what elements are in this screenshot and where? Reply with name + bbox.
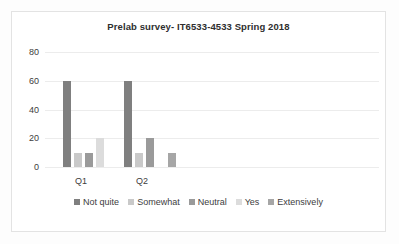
y-axis-tick-label: 60 (29, 76, 39, 86)
legend-label: Neutral (198, 197, 227, 207)
bar-groups: Q1Q2 (45, 52, 379, 167)
chart-card: Prelab survey- IT6533-4533 Spring 2018 0… (11, 11, 386, 232)
y-axis-tick-label: 40 (29, 105, 39, 115)
legend-swatch-icon (74, 199, 80, 205)
bar (74, 153, 82, 167)
bar (85, 153, 93, 167)
chart-title: Prelab survey- IT6533-4533 Spring 2018 (12, 21, 385, 32)
legend-item[interactable]: Yes (236, 197, 260, 207)
legend-label: Somewhat (137, 197, 180, 207)
legend-swatch-icon (128, 199, 134, 205)
legend-label: Extensively (277, 197, 323, 207)
plot-area: 020406080 Q1Q2 (45, 52, 379, 167)
bar (146, 138, 154, 167)
legend-item[interactable]: Neutral (189, 197, 227, 207)
legend-swatch-icon (236, 199, 242, 205)
bar (124, 81, 132, 167)
x-axis-category-label: Q2 (136, 176, 148, 186)
bar (63, 81, 71, 167)
legend-item[interactable]: Not quite (74, 197, 119, 207)
legend-label: Yes (245, 197, 260, 207)
gridline: 0 (45, 167, 379, 168)
legend-item[interactable]: Somewhat (128, 197, 180, 207)
bar (96, 138, 104, 167)
legend-item[interactable]: Extensively (268, 197, 323, 207)
bar (168, 153, 176, 167)
legend-label: Not quite (83, 197, 119, 207)
y-axis-tick-label: 0 (34, 162, 39, 172)
legend-swatch-icon (268, 199, 274, 205)
y-axis-tick-label: 80 (29, 47, 39, 57)
bar (135, 153, 143, 167)
chart-legend: Not quiteSomewhatNeutralYesExtensively (12, 197, 385, 207)
y-axis-tick-label: 20 (29, 133, 39, 143)
bar-group: Q2 (124, 52, 179, 167)
bar-group: Q1 (63, 52, 118, 167)
legend-swatch-icon (189, 199, 195, 205)
x-axis-category-label: Q1 (75, 176, 87, 186)
